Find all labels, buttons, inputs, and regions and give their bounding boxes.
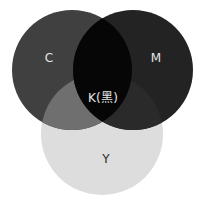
label-c: C	[45, 51, 54, 65]
label-y: Y	[102, 152, 110, 166]
label-m: M	[151, 51, 162, 65]
label-k-black: K(黑)	[88, 91, 118, 105]
